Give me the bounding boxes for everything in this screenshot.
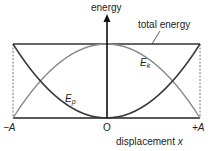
tick-minus-a: −A — [3, 122, 16, 133]
energy-displacement-diagram: energy total energy Ek Ep −A O +A displa… — [0, 0, 213, 151]
x-axis-label: displacement x — [116, 136, 184, 147]
tick-plus-a: +A — [192, 122, 205, 133]
total-energy-leader — [152, 31, 160, 44]
y-axis-arrow-icon — [104, 14, 111, 22]
y-axis-label: energy — [91, 2, 122, 13]
total-energy-label: total energy — [138, 19, 190, 30]
tick-origin: O — [103, 122, 111, 133]
